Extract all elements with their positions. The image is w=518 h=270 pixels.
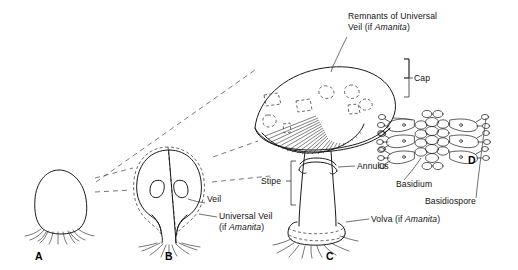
mycelium-c <box>273 236 358 258</box>
volva-suffix: ) <box>437 214 440 224</box>
label-annulus: Annulus <box>357 161 389 172</box>
label-remnants-universal-veil-line1: Remnants of Universal <box>348 11 437 22</box>
remnants-cond-prefix: Veil (if <box>348 22 375 32</box>
basidia-left <box>387 119 414 164</box>
label-veil: Veil <box>207 194 221 205</box>
label-remnants-universal-veil-line2: Veil (if Amanita) <box>348 22 410 33</box>
stage-a-drawing <box>25 170 94 244</box>
label-stipe: Stipe <box>261 176 281 187</box>
universal-veil-cond-suffix: ) <box>261 222 264 232</box>
volva-prefix: Volva (if <box>371 214 405 224</box>
universal-veil-cond-prefix: (if <box>219 222 229 232</box>
volva-genus-amanita: Amanita <box>405 214 437 224</box>
label-basidium: Basidium <box>396 179 432 190</box>
label-volva: Volva (if Amanita) <box>371 214 440 225</box>
remnants-cond-suffix: ) <box>407 22 410 32</box>
label-universal-veil-condition: (if Amanita) <box>219 222 264 233</box>
stage-b-drawing <box>134 147 205 257</box>
universal-veil-genus-amanita: Amanita <box>229 222 261 232</box>
remnants-genus-amanita: Amanita <box>375 22 407 32</box>
mushroom-development-diagram: .s {fill:none;stroke:#1a1a1a;stroke-widt… <box>0 0 518 270</box>
stage-letter-c: C <box>326 250 334 262</box>
label-universal-veil: Universal Veil <box>219 211 272 222</box>
stage-letter-a: A <box>35 250 43 262</box>
label-basidiospore: Basidiospore <box>425 196 476 207</box>
stage-letter-d: D <box>468 154 476 166</box>
label-cap: Cap <box>414 73 430 84</box>
stage-letter-b: B <box>165 250 173 262</box>
growth-correspondence-lines <box>95 70 270 192</box>
